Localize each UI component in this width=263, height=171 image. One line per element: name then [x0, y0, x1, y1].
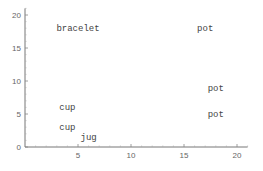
y-tick-label: 0 — [17, 143, 22, 152]
scatter-chart: 510152005101520 braceletpotpotpotcupcupj… — [0, 0, 263, 171]
y-tick-label: 20 — [12, 11, 21, 20]
point-label-cup: cup — [59, 103, 75, 113]
y-tick-label: 5 — [17, 110, 22, 119]
point-label-pot: pot — [208, 84, 224, 94]
y-tick-label: 15 — [12, 44, 21, 53]
point-label-pot: pot — [208, 110, 224, 120]
y-tick-label: 10 — [12, 77, 21, 86]
point-label-bracelet: bracelet — [56, 24, 99, 34]
x-tick-label: 20 — [233, 151, 242, 160]
x-tick-label: 15 — [180, 151, 189, 160]
x-tick-label: 5 — [76, 151, 81, 160]
point-label-cup: cup — [59, 123, 75, 133]
point-label-jug: jug — [80, 133, 96, 143]
x-tick-label: 10 — [127, 151, 136, 160]
point-labels: braceletpotpotpotcupcupjug — [56, 24, 224, 143]
point-label-pot: pot — [197, 24, 213, 34]
